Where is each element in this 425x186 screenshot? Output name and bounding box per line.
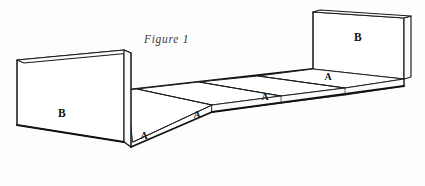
label-floor-panel-2-a: A xyxy=(261,91,269,102)
technical-line-drawing: B B A A A A xyxy=(0,0,425,186)
label-right-panel-b: B xyxy=(354,31,362,43)
right-end-panel xyxy=(313,10,411,79)
left-panel-thickness xyxy=(124,50,131,147)
figure-caption: Figure 1 xyxy=(144,33,189,45)
label-floor-panel-3-a: A xyxy=(324,71,332,82)
label-floor-front-strip-a: A xyxy=(140,130,148,141)
right-panel-face xyxy=(313,12,404,79)
right-panel-thickness xyxy=(404,16,411,79)
left-end-panel xyxy=(17,50,131,147)
label-left-panel-b: B xyxy=(58,107,66,119)
figure-container: B B A A A A Figure 1 xyxy=(0,0,425,186)
label-floor-panel-1-a: A xyxy=(193,109,201,120)
